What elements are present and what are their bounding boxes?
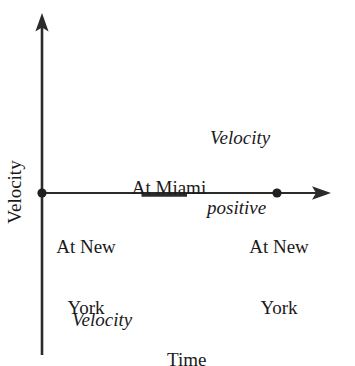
velocity-positive-line2: positive: [207, 196, 327, 219]
velocity-negative-line1: Velocity: [62, 308, 172, 331]
velocity-negative-annotation: Velocity negative: [62, 262, 172, 366]
y-axis-label-text: Velocity: [5, 160, 25, 223]
origin-point-label-line1: At New: [45, 237, 127, 257]
velocity-time-figure: Velocity Time At Miami At New York At Ne…: [0, 0, 355, 366]
velocity-positive-line1: Velocity: [207, 126, 327, 149]
at-miami-label-text: At Miami: [132, 177, 206, 198]
x-axis-label-text: Time: [167, 349, 206, 366]
end-point-label-line2: York: [240, 298, 318, 318]
velocity-positive-annotation: Velocity positive: [207, 80, 327, 265]
y-axis-label: Velocity: [0, 152, 30, 232]
